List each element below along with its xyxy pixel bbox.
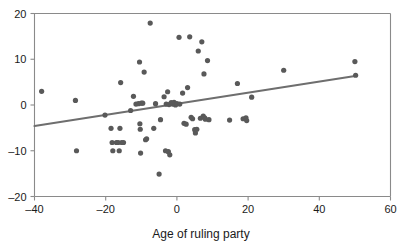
data-point: [137, 121, 142, 126]
data-point: [151, 126, 156, 131]
data-point: [39, 89, 44, 94]
scatter-plot-figure: –40–200204060 –20–1001020 Age of ruling …: [0, 0, 402, 243]
y-tick-label: –20: [8, 191, 26, 203]
data-point: [161, 94, 166, 99]
data-point: [281, 68, 286, 73]
x-tick-label: –20: [97, 203, 115, 215]
data-point: [190, 116, 195, 121]
data-point: [102, 112, 107, 117]
data-point: [227, 117, 232, 122]
plot-canvas: –40–200204060 –20–1001020 Age of ruling …: [0, 0, 402, 243]
data-point: [353, 73, 358, 78]
data-point: [73, 98, 78, 103]
data-point: [108, 126, 113, 131]
data-point: [249, 95, 254, 100]
data-point: [138, 150, 143, 155]
data-point: [176, 35, 181, 40]
data-point: [185, 85, 190, 90]
data-point: [158, 117, 163, 122]
data-point: [117, 148, 122, 153]
y-tick-marks: [31, 14, 35, 197]
data-point: [140, 101, 145, 106]
data-point: [180, 91, 185, 96]
trend-line-group: [35, 76, 357, 126]
x-tick-label: 40: [313, 203, 325, 215]
data-point: [194, 127, 199, 132]
data-point: [138, 127, 143, 132]
x-tick-label: 20: [242, 203, 254, 215]
data-point: [196, 48, 201, 53]
x-axis-title: Age of ruling party: [152, 227, 249, 241]
data-point: [157, 171, 162, 176]
data-point: [205, 58, 210, 63]
y-tick-label: –10: [8, 145, 26, 157]
data-point: [148, 21, 153, 26]
data-point: [165, 89, 170, 94]
data-point: [121, 140, 126, 145]
plot-frame: [35, 14, 391, 197]
data-point: [235, 81, 240, 86]
y-tick-label: 20: [14, 8, 26, 20]
data-point: [74, 148, 79, 153]
y-tick-label: 10: [14, 53, 26, 65]
data-point: [201, 71, 206, 76]
y-tick-labels: –20–1001020: [8, 8, 26, 203]
data-point: [187, 34, 192, 39]
data-point: [117, 126, 122, 131]
data-point: [128, 108, 133, 113]
x-tick-label: 0: [174, 203, 180, 215]
data-point: [153, 101, 158, 106]
data-point: [184, 122, 189, 127]
data-point: [352, 59, 357, 64]
y-tick-label: 0: [20, 99, 26, 111]
data-point: [167, 152, 172, 157]
data-point: [206, 117, 211, 122]
data-point: [131, 94, 136, 99]
x-tick-marks: [35, 197, 391, 201]
data-point: [199, 39, 204, 44]
data-point: [177, 101, 182, 106]
data-points-group: [39, 21, 358, 177]
data-point: [244, 118, 249, 123]
data-point: [142, 69, 147, 74]
data-point: [118, 80, 123, 85]
x-tick-labels: –40–200204060: [25, 203, 396, 215]
x-tick-label: –40: [25, 203, 43, 215]
trend-line: [35, 76, 357, 126]
data-point: [110, 148, 115, 153]
axis-frame-path: [35, 14, 391, 197]
data-point: [137, 59, 142, 64]
data-point: [144, 136, 149, 141]
x-tick-label: 60: [384, 203, 396, 215]
